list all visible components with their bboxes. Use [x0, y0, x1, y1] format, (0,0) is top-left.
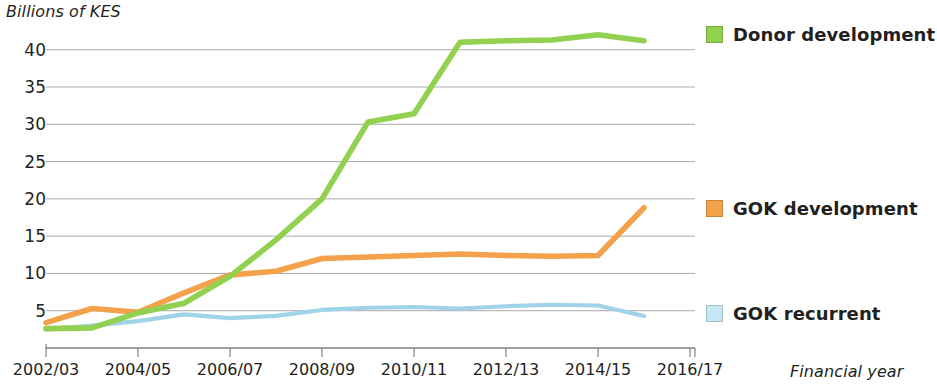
legend-swatch-donor-development: [706, 26, 723, 43]
legend-swatch-gok-development: [706, 200, 723, 217]
series-lines: [46, 35, 644, 330]
series-line-gok-recurrent: [46, 305, 644, 330]
series-line-donor-development: [46, 35, 644, 329]
plot-area: [0, 0, 937, 387]
legend-label-gok-recurrent: GOK recurrent: [733, 303, 881, 324]
line-chart: Billions of KES 403530252015105 2002/032…: [0, 0, 937, 387]
legend-swatch-gok-recurrent: [706, 305, 723, 322]
axis-lines: [46, 344, 695, 357]
gridlines: [46, 50, 695, 311]
legend-item-donor-development: Donor development: [706, 24, 935, 45]
legend-item-gok-development: GOK development: [706, 198, 918, 219]
legend-label-gok-development: GOK development: [733, 198, 918, 219]
legend-item-gok-recurrent: GOK recurrent: [706, 303, 881, 324]
legend-label-donor-development: Donor development: [733, 24, 935, 45]
